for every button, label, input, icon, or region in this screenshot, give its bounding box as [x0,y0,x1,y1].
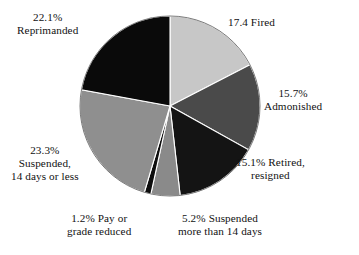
pie-label-retired-line1: 15.1% Retired, [236,156,305,169]
pie-label-fired: 17.4 Fired [228,16,275,29]
pie-label-pay-line2: grade reduced [67,225,131,238]
pie-label-retired-line2: resigned [236,169,305,182]
pie-label-suspended-less-line3: 14 days or less [11,170,79,183]
pie-label-admonished-line1: 15.7% [264,87,322,100]
pie-label-suspended-more-than-14-days: 5.2% Suspended more than 14 days [178,212,262,238]
pie-label-suspended-more-line2: more than 14 days [178,225,262,238]
pie-label-pay-line1: 1.2% Pay or [67,212,131,225]
pie-label-suspended-more-line1: 5.2% Suspended [178,212,262,225]
pie-label-admonished-line2: Admonished [264,100,322,113]
pie-slice [81,16,170,106]
pie-slices-group [80,16,260,196]
pie-label-reprimanded-line2: Reprimanded [17,24,78,37]
pie-chart-figure: 17.4 Fired 15.7% Admonished 15.1% Retire… [0,0,359,255]
pie-label-suspended-less-line2: Suspended, [11,157,79,170]
pie-label-fired-line1: 17.4 Fired [228,16,275,29]
pie-label-admonished: 15.7% Admonished [264,87,322,113]
pie-label-pay-or-grade-reduced: 1.2% Pay or grade reduced [67,212,131,238]
pie-label-suspended-less-line1: 23.3% [11,144,79,157]
pie-label-suspended-14-days-or-less: 23.3% Suspended, 14 days or less [11,144,79,184]
pie-label-retired-resigned: 15.1% Retired, resigned [236,156,305,182]
pie-label-reprimanded-line1: 22.1% [17,11,78,24]
pie-label-reprimanded: 22.1% Reprimanded [17,11,78,37]
